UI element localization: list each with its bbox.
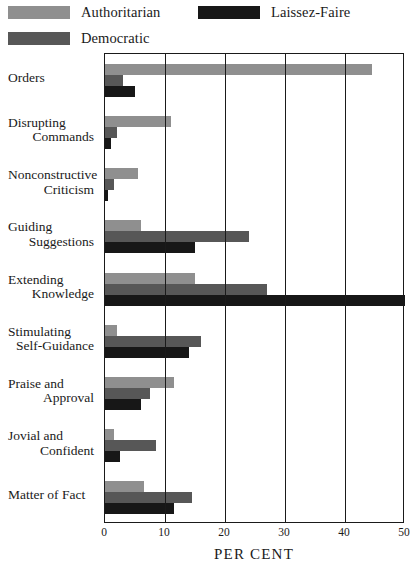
- gridline-30: [285, 54, 286, 522]
- category-label-line2: Approval: [0, 391, 98, 406]
- bar-laissez-faire: [105, 190, 108, 201]
- bar-laissez-faire: [105, 295, 405, 306]
- bar-democratic: [105, 388, 150, 399]
- category-label-line1: Praise and: [0, 377, 98, 392]
- gridline-10: [165, 54, 166, 522]
- bar-laissez-faire: [105, 138, 111, 149]
- category-label-line1: Guiding: [0, 220, 98, 235]
- bar-democratic: [105, 440, 156, 451]
- bar-group: [105, 429, 403, 462]
- bar-authoritarian: [105, 64, 372, 75]
- category-label-line1: Nonconstructive: [0, 168, 98, 183]
- x-tick-label-10: 10: [158, 526, 170, 538]
- bar-authoritarian: [105, 325, 117, 336]
- category-label: GuidingSuggestions: [0, 220, 98, 249]
- category-label: Jovial andConfident: [0, 429, 98, 458]
- bar-democratic: [105, 284, 267, 295]
- x-axis-title: PER CENT: [104, 546, 404, 563]
- bar-authoritarian: [105, 168, 138, 179]
- bar-authoritarian: [105, 377, 174, 388]
- bar-democratic: [105, 492, 192, 503]
- bar-rows: [105, 54, 403, 522]
- bar-laissez-faire: [105, 347, 189, 358]
- bar-group: [105, 325, 403, 358]
- bar-group: [105, 377, 403, 410]
- x-tick-label-40: 40: [338, 526, 350, 538]
- bar-group: [105, 168, 403, 201]
- category-label-line1: Orders: [0, 71, 98, 86]
- gridline-40: [345, 54, 346, 522]
- bar-laissez-faire: [105, 503, 174, 514]
- category-label-line1: Matter of Fact: [0, 488, 98, 503]
- category-label-line1: Extending: [0, 273, 98, 288]
- category-label-line2: Knowledge: [0, 287, 98, 302]
- chart-plot: OrdersDisruptingCommandsNonconstructiveC…: [0, 0, 413, 586]
- bar-democratic: [105, 231, 249, 242]
- bar-democratic: [105, 179, 114, 190]
- x-tick-label-0: 0: [101, 526, 107, 538]
- bar-authoritarian: [105, 116, 171, 127]
- bar-authoritarian: [105, 429, 114, 440]
- category-label-line2: Suggestions: [0, 235, 98, 250]
- bar-authoritarian: [105, 273, 195, 284]
- bar-group: [105, 64, 403, 97]
- bar-democratic: [105, 336, 201, 347]
- category-label-line1: Jovial and: [0, 429, 98, 444]
- bar-authoritarian: [105, 220, 141, 231]
- category-label-line2: Confident: [0, 444, 98, 459]
- bar-laissez-faire: [105, 399, 141, 410]
- bar-group: [105, 116, 403, 149]
- category-label-line1: Stimulating: [0, 325, 98, 340]
- bar-group: [105, 481, 403, 514]
- plot-area: [104, 53, 404, 523]
- x-tick-label-20: 20: [218, 526, 230, 538]
- category-label: StimulatingSelf-Guidance: [0, 325, 98, 354]
- bar-laissez-faire: [105, 242, 195, 253]
- bar-laissez-faire: [105, 451, 120, 462]
- category-label-line2: Criticism: [0, 183, 98, 198]
- category-label: Praise andApproval: [0, 377, 98, 406]
- category-label-line2: Self-Guidance: [0, 339, 98, 354]
- category-label-line1: Disrupting: [0, 116, 98, 131]
- x-tick-label-30: 30: [278, 526, 290, 538]
- category-label: NonconstructiveCriticism: [0, 168, 98, 197]
- bar-authoritarian: [105, 481, 144, 492]
- bar-group: [105, 273, 403, 306]
- bar-democratic: [105, 75, 123, 86]
- bar-democratic: [105, 127, 117, 138]
- category-label: ExtendingKnowledge: [0, 273, 98, 302]
- category-label: Orders: [0, 71, 98, 86]
- gridline-20: [225, 54, 226, 522]
- bar-group: [105, 220, 403, 253]
- category-label-line2: Commands: [0, 130, 98, 145]
- bar-laissez-faire: [105, 86, 135, 97]
- x-tick-label-50: 50: [398, 526, 410, 538]
- category-label: DisruptingCommands: [0, 116, 98, 145]
- category-label: Matter of Fact: [0, 488, 98, 503]
